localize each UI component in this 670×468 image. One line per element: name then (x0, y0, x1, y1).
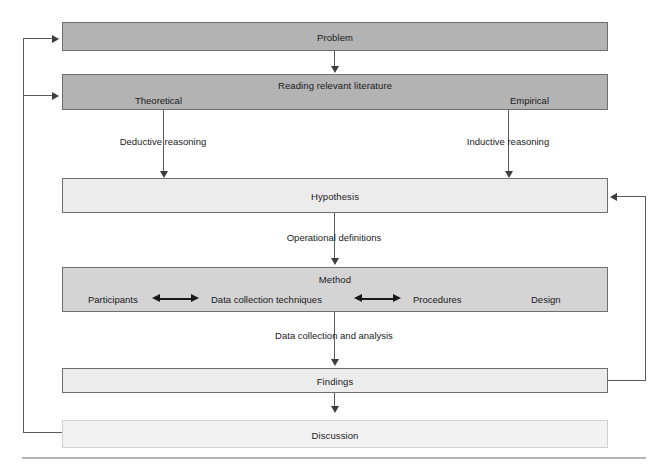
flowchart-canvas: Problem Reading relevant literature Theo… (0, 0, 670, 468)
arrow-into-hypothesis-icon (610, 193, 617, 201)
right-feedback-vertical-line (645, 196, 646, 380)
arrow-method-to-findings-icon (331, 359, 339, 366)
node-findings-label: Findings (63, 376, 607, 387)
edge-label-inductive-reasoning: Inductive reasoning (418, 136, 598, 147)
bottom-divider (22, 457, 646, 459)
arrow-into-problem-icon (52, 35, 59, 43)
method-double-arrow-left-icon (152, 294, 199, 303)
problem-to-reading-line (334, 51, 335, 67)
node-method-part-data-collection-techniques: Data collection techniques (211, 294, 322, 305)
node-method-label: Method (63, 274, 607, 285)
left-feedback-vertical-line (23, 38, 24, 432)
arrow-problem-to-reading-icon (331, 66, 339, 73)
node-discussion[interactable]: Discussion (62, 420, 608, 448)
node-reading-sub-theoretical: Theoretical (135, 95, 182, 106)
node-method-part-participants: Participants (88, 294, 138, 305)
edge-label-operational-definitions: Operational definitions (244, 232, 424, 243)
node-discussion-label: Discussion (63, 430, 607, 441)
node-problem[interactable]: Problem (62, 22, 608, 51)
arrow-deductive-to-hypothesis-icon (160, 171, 168, 178)
left-feedback-to-discussion-line (23, 432, 63, 433)
node-method-part-design: Design (531, 294, 561, 305)
findings-to-discussion-line (334, 393, 335, 407)
edge-label-deductive-reasoning: Deductive reasoning (73, 136, 253, 147)
node-hypothesis[interactable]: Hypothesis (62, 178, 608, 213)
node-problem-label: Problem (63, 32, 607, 43)
left-feedback-to-problem-line (23, 38, 53, 39)
right-feedback-from-findings-line (608, 380, 646, 381)
node-method[interactable]: Method Participants Data collection tech… (62, 267, 608, 312)
node-reading-label: Reading relevant literature (63, 80, 607, 91)
right-feedback-to-hypothesis-line (617, 196, 646, 197)
node-reading-relevant-literature[interactable]: Reading relevant literature Theoretical … (62, 74, 608, 110)
node-hypothesis-label: Hypothesis (63, 191, 607, 202)
node-method-part-procedures: Procedures (413, 294, 462, 305)
arrow-inductive-to-hypothesis-icon (505, 171, 513, 178)
node-findings[interactable]: Findings (62, 368, 608, 393)
arrow-hypothesis-to-method-icon (331, 258, 339, 265)
method-double-arrow-right-icon (354, 294, 401, 303)
node-reading-sub-empirical: Empirical (510, 95, 549, 106)
left-feedback-to-reading-line (23, 95, 53, 96)
edge-label-data-collection-and-analysis: Data collection and analysis (234, 330, 434, 341)
arrow-into-reading-icon (52, 92, 59, 100)
arrow-findings-to-discussion-icon (331, 406, 339, 413)
